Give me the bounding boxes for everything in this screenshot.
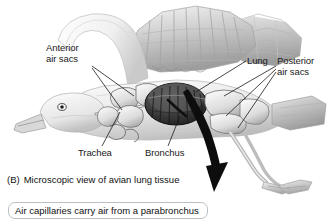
- section-caption: (B)Microscopic view of avian lung tissue: [7, 174, 179, 185]
- avian-respiratory-figure: Anterior air sacs Lung Posterior air sac…: [0, 0, 327, 220]
- caption-text: Microscopic view of avian lung tissue: [24, 174, 180, 185]
- label-posterior-line1: Posterior: [277, 56, 314, 67]
- label-anterior-air-sacs: Anterior air sacs: [46, 43, 78, 64]
- bird-legs: [230, 132, 312, 194]
- label-posterior-line2: air sacs: [277, 67, 314, 78]
- caption-tag: (B): [7, 174, 20, 185]
- callout-text: Air capillaries carry air from a parabro…: [15, 205, 199, 216]
- label-posterior-air-sacs: Posterior air sacs: [277, 56, 314, 77]
- bird-tail: [272, 96, 326, 130]
- label-bronchus: Bronchus: [145, 148, 184, 159]
- label-trachea: Trachea: [78, 148, 112, 159]
- label-anterior-line2: air sacs: [46, 54, 78, 65]
- label-lung: Lung: [247, 56, 268, 67]
- callout-box: Air capillaries carry air from a parabro…: [8, 202, 208, 219]
- bird-illustration: [0, 0, 327, 220]
- bird-head: [14, 93, 106, 133]
- label-anterior-line1: Anterior: [46, 43, 78, 54]
